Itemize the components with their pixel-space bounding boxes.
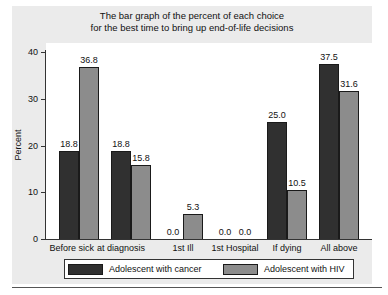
bar <box>79 67 99 239</box>
category-label: All above <box>299 243 379 254</box>
y-tick-label: 30 <box>12 94 38 104</box>
y-tick-label: 0 <box>12 234 38 244</box>
category-label: Before sick <box>38 243 94 254</box>
value-label: 5.3 <box>178 202 208 212</box>
bottom-divider <box>12 287 382 288</box>
y-axis <box>45 50 46 240</box>
y-tick <box>41 52 45 53</box>
bar <box>339 91 359 239</box>
bar <box>131 165 151 239</box>
value-label: 15.8 <box>126 153 156 163</box>
y-tick <box>41 99 45 100</box>
legend: Adolescent with cancer Adolescent with H… <box>64 259 354 279</box>
x-axis <box>45 239 372 240</box>
legend-swatch-cancer <box>68 264 103 275</box>
chart-title: The bar graph of the percent of each cho… <box>12 10 372 34</box>
y-tick <box>41 146 45 147</box>
value-label: 10.5 <box>282 178 312 188</box>
value-label: 18.8 <box>106 139 136 149</box>
legend-label-hiv: Adolescent with HIV <box>264 264 345 275</box>
legend-label-cancer: Adolescent with cancer <box>109 264 202 275</box>
legend-swatch-hiv <box>223 264 258 275</box>
bar <box>319 64 339 239</box>
bar <box>111 151 131 239</box>
chart-title-line-2: for the best time to bring up end-of-lif… <box>12 22 372 34</box>
value-label: 31.6 <box>334 79 364 89</box>
value-label: 0.0 <box>230 227 260 237</box>
value-label: 37.5 <box>314 52 344 62</box>
chart-title-line-1: The bar graph of the percent of each cho… <box>12 10 372 22</box>
bar <box>59 151 79 239</box>
bar <box>287 190 307 239</box>
value-label: 36.8 <box>74 55 104 65</box>
bar <box>183 214 203 239</box>
value-label: 25.0 <box>262 110 292 120</box>
y-tick-label: 10 <box>12 187 38 197</box>
y-tick-label: 20 <box>12 141 38 151</box>
y-tick <box>41 192 45 193</box>
y-tick-label: 40 <box>12 47 38 57</box>
y-tick <box>41 239 45 240</box>
